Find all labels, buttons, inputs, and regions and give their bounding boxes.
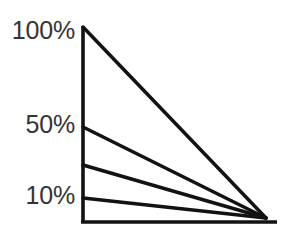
series-line-10 <box>83 198 266 218</box>
y-tick-label-50: 50% <box>26 112 75 137</box>
chart-figure: 100% 50% 10% <box>0 0 288 242</box>
y-tick-label-10: 10% <box>26 183 75 208</box>
y-tick-label-100: 100% <box>12 18 75 43</box>
series-line-100 <box>83 27 266 218</box>
